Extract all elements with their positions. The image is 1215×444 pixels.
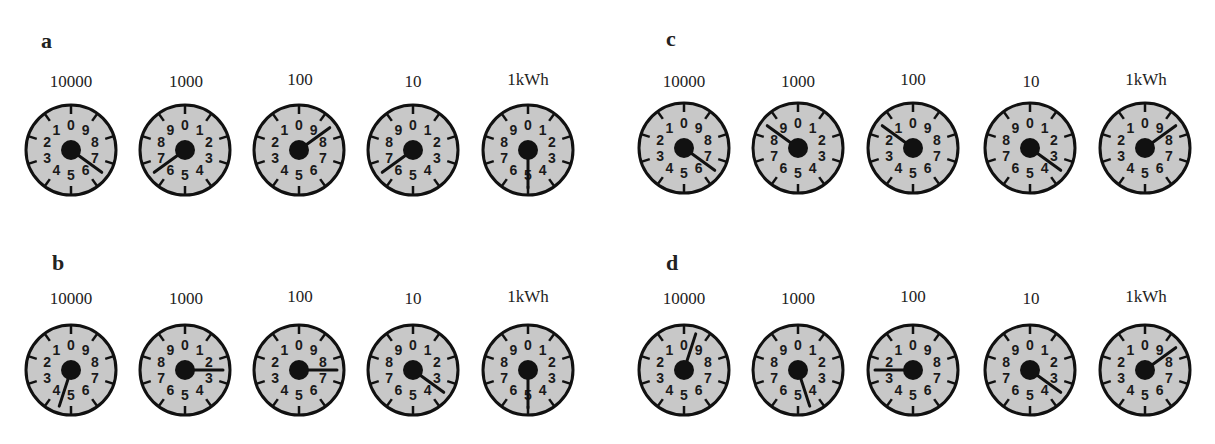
svg-text:6: 6 <box>166 162 174 178</box>
svg-text:7: 7 <box>704 148 712 164</box>
svg-text:8: 8 <box>91 134 99 150</box>
svg-text:7: 7 <box>91 150 99 166</box>
dial-c-10: 0123456789 <box>985 103 1075 193</box>
svg-text:2: 2 <box>1117 132 1125 148</box>
svg-text:6: 6 <box>310 162 318 178</box>
dial-a-100: 0123456789 <box>254 105 344 195</box>
svg-text:0: 0 <box>295 117 303 133</box>
svg-text:3: 3 <box>433 370 441 386</box>
svg-text:9: 9 <box>924 342 932 358</box>
svg-text:6: 6 <box>924 382 932 398</box>
svg-text:1: 1 <box>196 342 204 358</box>
svg-text:2: 2 <box>1050 354 1058 370</box>
svg-text:8: 8 <box>385 354 393 370</box>
svg-text:2: 2 <box>205 354 213 370</box>
svg-text:3: 3 <box>548 370 556 386</box>
svg-text:2: 2 <box>433 134 441 150</box>
svg-text:7: 7 <box>1002 148 1010 164</box>
svg-text:2: 2 <box>271 354 279 370</box>
svg-text:7: 7 <box>500 370 508 386</box>
svg-text:0: 0 <box>67 337 75 353</box>
svg-text:4: 4 <box>894 382 902 398</box>
svg-text:3: 3 <box>205 150 213 166</box>
svg-text:6: 6 <box>1011 160 1019 176</box>
svg-text:1: 1 <box>809 342 817 358</box>
svg-text:8: 8 <box>91 354 99 370</box>
dial-d-1000: 0123456789 <box>753 325 843 415</box>
svg-text:5: 5 <box>680 165 688 181</box>
svg-text:5: 5 <box>295 387 303 403</box>
svg-text:1: 1 <box>52 342 60 358</box>
dial-d-10000: 0123456789 <box>639 325 729 415</box>
svg-text:5: 5 <box>295 167 303 183</box>
svg-text:1: 1 <box>894 342 902 358</box>
svg-text:0: 0 <box>680 115 688 131</box>
svg-text:7: 7 <box>385 370 393 386</box>
svg-text:1: 1 <box>539 342 547 358</box>
svg-text:6: 6 <box>779 160 787 176</box>
svg-text:8: 8 <box>319 134 327 150</box>
svg-text:1: 1 <box>1126 342 1134 358</box>
svg-text:9: 9 <box>924 120 932 136</box>
svg-text:9: 9 <box>166 342 174 358</box>
svg-text:5: 5 <box>181 167 189 183</box>
dial-c-100: 0123456789 <box>868 103 958 193</box>
dial-a-10: 0123456789 <box>368 105 458 195</box>
svg-text:1: 1 <box>424 122 432 138</box>
svg-text:0: 0 <box>409 117 417 133</box>
svg-text:3: 3 <box>1117 148 1125 164</box>
svg-text:6: 6 <box>82 382 90 398</box>
svg-text:7: 7 <box>1165 148 1173 164</box>
svg-text:4: 4 <box>52 382 60 398</box>
svg-text:2: 2 <box>885 354 893 370</box>
svg-text:0: 0 <box>909 337 917 353</box>
dial-c-10000: 0123456789 <box>639 103 729 193</box>
svg-text:0: 0 <box>1141 115 1149 131</box>
svg-text:3: 3 <box>205 370 213 386</box>
svg-text:5: 5 <box>909 387 917 403</box>
svg-text:0: 0 <box>794 337 802 353</box>
svg-text:3: 3 <box>548 150 556 166</box>
svg-text:7: 7 <box>157 370 165 386</box>
dial-a-1kWh: 0123456789 <box>483 105 573 195</box>
svg-text:3: 3 <box>656 370 664 386</box>
svg-text:5: 5 <box>67 387 75 403</box>
svg-text:7: 7 <box>1002 370 1010 386</box>
svg-text:4: 4 <box>665 382 673 398</box>
svg-text:9: 9 <box>82 122 90 138</box>
svg-text:6: 6 <box>695 382 703 398</box>
svg-text:5: 5 <box>409 167 417 183</box>
svg-text:2: 2 <box>43 354 51 370</box>
svg-text:4: 4 <box>424 162 432 178</box>
svg-text:1: 1 <box>665 342 673 358</box>
svg-text:2: 2 <box>656 132 664 148</box>
svg-text:8: 8 <box>500 354 508 370</box>
svg-text:3: 3 <box>818 370 826 386</box>
svg-text:2: 2 <box>656 354 664 370</box>
svg-text:1: 1 <box>809 120 817 136</box>
svg-text:0: 0 <box>67 117 75 133</box>
svg-text:7: 7 <box>933 148 941 164</box>
svg-text:0: 0 <box>1026 337 1034 353</box>
svg-text:2: 2 <box>818 132 826 148</box>
svg-text:6: 6 <box>1011 382 1019 398</box>
svg-text:2: 2 <box>548 354 556 370</box>
svg-text:0: 0 <box>295 337 303 353</box>
svg-text:0: 0 <box>181 337 189 353</box>
svg-text:8: 8 <box>157 134 165 150</box>
svg-text:5: 5 <box>794 165 802 181</box>
svg-text:9: 9 <box>1011 120 1019 136</box>
svg-text:0: 0 <box>680 337 688 353</box>
svg-text:9: 9 <box>779 342 787 358</box>
svg-text:0: 0 <box>524 117 532 133</box>
svg-text:9: 9 <box>310 342 318 358</box>
svg-text:6: 6 <box>509 382 517 398</box>
svg-text:3: 3 <box>43 150 51 166</box>
svg-text:4: 4 <box>539 162 547 178</box>
svg-text:8: 8 <box>704 354 712 370</box>
svg-text:3: 3 <box>818 148 826 164</box>
svg-text:8: 8 <box>157 354 165 370</box>
svg-text:5: 5 <box>1141 387 1149 403</box>
svg-text:7: 7 <box>91 370 99 386</box>
svg-text:1: 1 <box>196 122 204 138</box>
